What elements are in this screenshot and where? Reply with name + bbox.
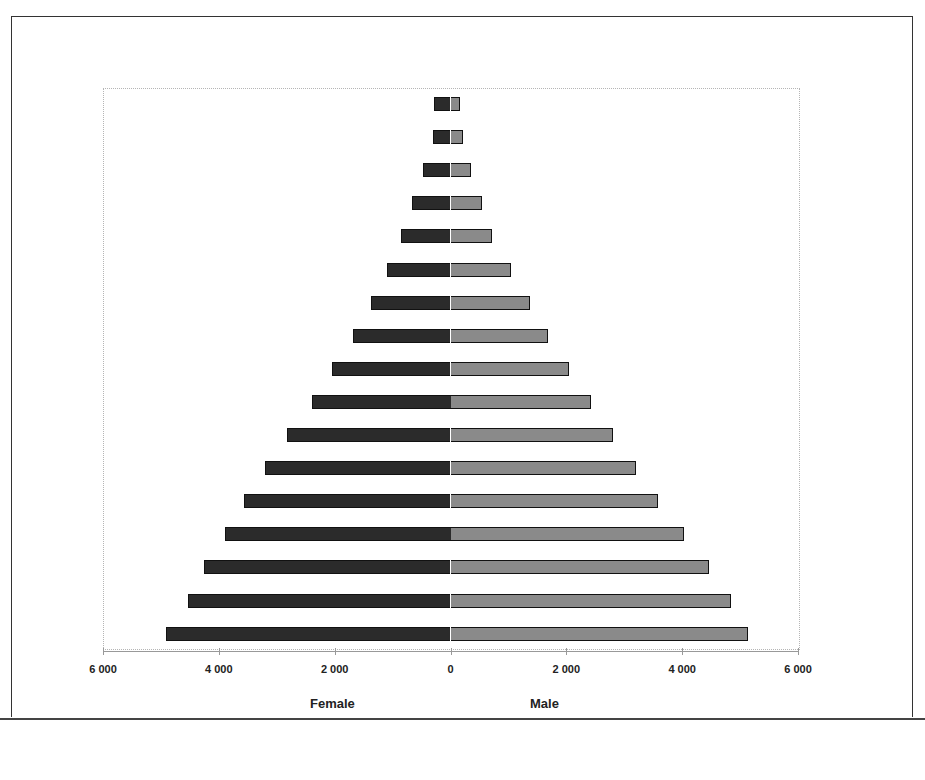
- bar-male: [451, 527, 685, 541]
- bar-male: [451, 130, 463, 144]
- bar-female: [434, 97, 451, 111]
- x-tick: [451, 648, 452, 655]
- x-tick-label: 2 000: [305, 663, 365, 675]
- bar-male: [451, 627, 749, 641]
- bar-male: [451, 229, 493, 243]
- bar-female: [401, 229, 451, 243]
- bar-male: [451, 329, 549, 343]
- bar-female: [225, 527, 451, 541]
- male-label: Male: [530, 696, 559, 711]
- x-tick-label: 6 000: [768, 663, 828, 675]
- x-tick: [103, 648, 104, 655]
- x-tick-label: 4 000: [189, 663, 249, 675]
- bar-female: [188, 594, 450, 608]
- bar-female: [332, 362, 450, 376]
- bar-male: [451, 163, 472, 177]
- x-tick-label: 6 000: [73, 663, 133, 675]
- bar-male: [451, 461, 636, 475]
- x-tick-label: 4 000: [652, 663, 712, 675]
- bar-male: [451, 296, 531, 310]
- bar-male: [451, 560, 710, 574]
- x-tick: [566, 648, 567, 655]
- x-tick-label: 0: [421, 663, 481, 675]
- x-tick: [798, 648, 799, 655]
- bar-female: [423, 163, 450, 177]
- bar-male: [451, 594, 731, 608]
- x-tick-label: 2 000: [536, 663, 596, 675]
- x-tick: [219, 648, 220, 655]
- bar-female: [353, 329, 451, 343]
- female-label: Female: [310, 696, 355, 711]
- bar-male: [451, 263, 511, 277]
- bar-male: [451, 395, 591, 409]
- bar-female: [287, 428, 450, 442]
- bar-female: [433, 130, 451, 144]
- bar-female: [166, 627, 450, 641]
- bar-male: [451, 494, 659, 508]
- bar-male: [451, 97, 460, 111]
- x-tick: [682, 648, 683, 655]
- bar-male: [451, 196, 482, 210]
- bar-female: [371, 296, 451, 310]
- bar-male: [451, 428, 613, 442]
- bar-female: [244, 494, 451, 508]
- page-rule: [0, 718, 925, 720]
- bar-female: [387, 263, 450, 277]
- bar-male: [451, 362, 570, 376]
- x-tick: [335, 648, 336, 655]
- bar-female: [412, 196, 450, 210]
- bar-female: [312, 395, 451, 409]
- bar-female: [265, 461, 450, 475]
- bar-female: [204, 560, 450, 574]
